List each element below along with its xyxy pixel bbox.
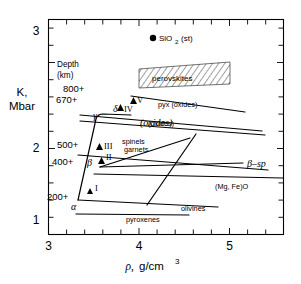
depth-scale-title-line2: (km) <box>57 71 74 80</box>
depth-tick-800: 800+ <box>63 83 85 94</box>
x-tick-label-5: 5 <box>226 239 233 253</box>
depth-tick-200: 200+ <box>47 191 69 202</box>
depth-tick-670: 670+ <box>56 94 78 105</box>
sio2-label-subscript: 2 <box>175 38 179 45</box>
depth-tick-400: 400+ <box>52 156 74 167</box>
mg-feo-label: (Mg, Fe)O <box>215 182 249 191</box>
delta-symbol: δ <box>113 103 118 114</box>
roman-label-iv: IV <box>124 104 134 114</box>
beta-symbol: β <box>86 157 92 168</box>
depth-scale-title-line1: Depth <box>57 60 79 69</box>
depth-tick-500: 500+ <box>57 139 79 150</box>
alpha-symbol: α <box>71 201 77 212</box>
y-tick-label-2: 2 <box>33 141 40 155</box>
roman-label-ii: II <box>106 152 112 162</box>
sio2-label-phase: (st) <box>181 34 193 43</box>
roman-label-v: V <box>137 95 144 105</box>
x-tick-label-4: 4 <box>136 239 143 253</box>
chart-figure: 3 2 1 3 4 5 K, Mbar ρ, g/cm 3 Depth (km)… <box>0 0 301 284</box>
x-tick-label-3: 3 <box>45 239 52 253</box>
perovskites-label: perovskites <box>152 74 192 83</box>
y-axis-title-line1: K, <box>17 86 28 98</box>
roman-label-iii: III <box>104 141 113 151</box>
sio2-label-main: SiO <box>159 34 172 43</box>
y-axis-title-line2: Mbar <box>9 100 35 112</box>
k-vs-rho-plot: 3 2 1 3 4 5 K, Mbar ρ, g/cm 3 Depth (km)… <box>0 0 301 284</box>
olivines-label: olivines <box>181 204 206 213</box>
beta-sp-label: β–sp <box>246 158 266 169</box>
x-axis-title-units: g/cm <box>139 260 164 272</box>
x-axis-title-exponent: 3 <box>175 257 180 266</box>
roman-label-i: I <box>95 183 98 193</box>
sio2-st-marker <box>150 35 156 41</box>
pyroxenes-label: pyroxenes <box>126 215 160 224</box>
pyx-oxides-label: pyx (oxides) <box>158 100 197 109</box>
x-axis-title-rho: ρ, <box>125 260 135 273</box>
y-tick-label-1: 1 <box>33 213 40 227</box>
y-tick-label-3: 3 <box>33 24 40 38</box>
